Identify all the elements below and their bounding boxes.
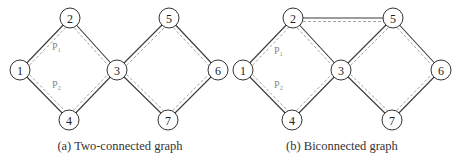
- node-6: 6: [431, 60, 451, 80]
- edge-1-2: [243, 18, 293, 70]
- node-label: 3: [114, 64, 120, 78]
- node-label: 4: [289, 114, 295, 128]
- node-2: 2: [283, 8, 303, 28]
- path-label: P₂: [274, 79, 283, 90]
- edge-4-3: [292, 70, 341, 120]
- edge-3-5: [341, 18, 393, 70]
- edge-5-6: [169, 18, 218, 70]
- edge-3-7: [117, 70, 168, 120]
- path-overlay: [23, 20, 73, 72]
- path-overlay: [119, 20, 171, 72]
- edge-1-2: [20, 18, 70, 70]
- path-overlay: [166, 68, 216, 118]
- path-overlay: [66, 68, 114, 118]
- path-label: P₁: [274, 45, 283, 56]
- path-overlay: [290, 20, 338, 72]
- edge-7-6: [168, 70, 218, 120]
- node-1: 1: [233, 60, 253, 80]
- node-label: 6: [215, 64, 221, 78]
- path-overlay: [246, 20, 296, 72]
- node-4: 4: [59, 110, 79, 130]
- node-label: 1: [17, 64, 23, 78]
- node-label: 2: [67, 12, 73, 26]
- node-5: 5: [159, 8, 179, 28]
- path-overlay: [119, 68, 170, 118]
- node-label: 5: [166, 12, 172, 26]
- path-overlay: [343, 68, 394, 118]
- node-label: 3: [338, 64, 344, 78]
- node-2: 2: [60, 8, 80, 28]
- node-7: 7: [158, 110, 178, 130]
- node-label: 4: [66, 114, 72, 128]
- node-3: 3: [107, 60, 127, 80]
- edge-2-3: [70, 18, 117, 70]
- node-6: 6: [208, 60, 228, 80]
- edge-1-4: [243, 70, 292, 120]
- path-overlay: [343, 20, 395, 72]
- node-4: 4: [282, 110, 302, 130]
- figure-a: P₁P₂1234567(a) Two-connected graph: [10, 8, 228, 153]
- figure-caption-b: (b) Biconnected graph: [286, 139, 399, 153]
- edge-3-5: [117, 18, 169, 70]
- graph-figure: P₁P₂1234567(a) Two-connected graphP₁P₂12…: [0, 0, 458, 158]
- path-overlay: [290, 68, 339, 118]
- path-overlay: [390, 20, 438, 72]
- edge-7-6: [392, 70, 441, 120]
- edge-5-6: [393, 18, 441, 70]
- node-label: 5: [390, 12, 396, 26]
- node-1: 1: [10, 60, 30, 80]
- path-overlay: [245, 68, 294, 118]
- node-label: 6: [438, 64, 444, 78]
- path-overlay: [67, 20, 114, 72]
- node-3: 3: [331, 60, 351, 80]
- figure-caption-a: (a) Two-connected graph: [57, 139, 183, 153]
- edge-3-7: [341, 70, 392, 120]
- edge-2-3: [293, 18, 341, 70]
- edge-1-4: [20, 70, 69, 120]
- path-label: P₁: [52, 41, 61, 52]
- node-label: 2: [290, 12, 296, 26]
- node-label: 7: [165, 114, 171, 128]
- path-label: P₂: [52, 79, 61, 90]
- path-overlay: [390, 68, 439, 118]
- node-label: 7: [389, 114, 395, 128]
- path-overlay: [22, 68, 71, 118]
- node-label: 1: [240, 64, 246, 78]
- node-7: 7: [382, 110, 402, 130]
- figure-b: P₁P₂1234567(b) Biconnected graph: [233, 8, 451, 153]
- node-5: 5: [383, 8, 403, 28]
- path-overlay: [166, 20, 215, 72]
